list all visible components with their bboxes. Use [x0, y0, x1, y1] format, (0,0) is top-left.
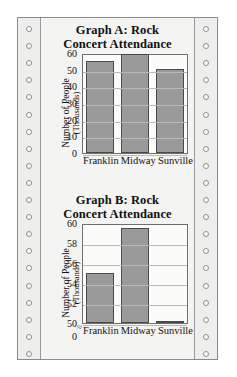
sprocket-hole-left-14	[26, 248, 32, 254]
gridline-b-52	[83, 305, 187, 306]
sprocket-hole-right-15	[203, 265, 209, 271]
sprocket-hole-left-20	[26, 351, 32, 357]
y-tick-a-60: 60	[67, 49, 77, 59]
bar-b-midway	[121, 228, 149, 323]
sprocket-hole-left-10	[26, 180, 32, 186]
sprocket-hole-left-2	[26, 43, 32, 49]
sprocket-hole-right-12	[203, 214, 209, 220]
sprocket-hole-right-8	[203, 146, 209, 152]
sprocket-hole-right-7	[203, 129, 209, 135]
bar-b-franklin	[86, 273, 114, 323]
sprocket-hole-left-8	[26, 146, 32, 152]
sprocket-hole-right-2	[203, 43, 209, 49]
sprocket-hole-left-4	[26, 77, 32, 83]
y-tick-b-58: 58	[67, 239, 77, 249]
x-label-b-franklin: Franklin	[83, 325, 119, 336]
y-tick-b-50: 50	[67, 319, 77, 329]
sprocket-hole-left-7	[26, 129, 32, 135]
sprocket-hole-left-1	[26, 26, 32, 32]
gridline-b-54	[83, 285, 187, 286]
sprocket-hole-right-14	[203, 248, 209, 254]
sprocket-strip-left	[18, 18, 41, 359]
sprocket-hole-left-3	[26, 60, 32, 66]
continuous-form-paper: Graph A: Rock Concert Attendance Number …	[17, 17, 218, 360]
sprocket-hole-right-9	[203, 163, 209, 169]
sprocket-hole-left-5	[26, 94, 32, 100]
sprocket-hole-left-15	[26, 265, 32, 271]
y-axis-ticks-b: 0505254565860	[59, 224, 79, 324]
gridline-a-20	[83, 122, 187, 123]
x-label-a-sunville: Sunville	[158, 155, 193, 166]
y-tick-b-60: 60	[67, 219, 77, 229]
gridline-b-58	[83, 245, 187, 246]
sprocket-strip-right	[194, 18, 217, 359]
gridline-a-40	[83, 88, 187, 89]
sprocket-hole-right-11	[203, 197, 209, 203]
bar-a-sunville	[156, 69, 184, 153]
chart-title-b: Graph B: Rock Concert Attendance	[41, 194, 194, 221]
x-label-b-midway: Midway	[121, 325, 156, 336]
sprocket-hole-right-3	[203, 60, 209, 66]
sprocket-hole-left-18	[26, 317, 32, 323]
y-tick-b-0: 0	[72, 332, 77, 342]
y-tick-a-10: 10	[67, 132, 77, 142]
x-label-b-sunville: Sunville	[158, 325, 193, 336]
sprocket-hole-left-12	[26, 214, 32, 220]
y-tick-a-30: 30	[67, 99, 77, 109]
sprocket-hole-right-20	[203, 351, 209, 357]
sprocket-hole-left-11	[26, 197, 32, 203]
y-tick-a-20: 20	[67, 116, 77, 126]
sprocket-hole-left-17	[26, 300, 32, 306]
gridline-a-10	[83, 138, 187, 139]
bar-group-b	[83, 225, 187, 323]
chart-graph-b: Graph B: Rock Concert Attendance Number …	[41, 194, 194, 359]
chart-title-a-line1: Graph A: Rock	[76, 23, 159, 37]
x-label-a-midway: Midway	[121, 155, 156, 166]
sprocket-hole-right-19	[203, 334, 209, 340]
chart-title-b-line1: Graph B: Rock	[76, 193, 159, 207]
sprocket-hole-right-16	[203, 283, 209, 289]
sprocket-hole-right-17	[203, 300, 209, 306]
y-tick-b-56: 56	[67, 259, 77, 269]
sprocket-hole-right-5	[203, 94, 209, 100]
sprocket-hole-right-4	[203, 77, 209, 83]
sprocket-hole-right-18	[203, 317, 209, 323]
sprocket-hole-left-19	[26, 334, 32, 340]
chart-graph-a: Graph A: Rock Concert Attendance Number …	[41, 24, 194, 189]
plot-area-b	[82, 224, 188, 324]
y-axis-ticks-a: 0102030405060	[59, 54, 79, 154]
printed-sheet: Graph A: Rock Concert Attendance Number …	[41, 18, 194, 359]
sprocket-hole-right-6	[203, 112, 209, 118]
y-tick-b-52: 52	[67, 299, 77, 309]
sprocket-hole-right-13	[203, 231, 209, 237]
x-axis-labels-a: FranklinMidwaySunville	[82, 155, 194, 166]
y-tick-a-40: 40	[67, 82, 77, 92]
sprocket-hole-left-6	[26, 112, 32, 118]
gridline-a-30	[83, 105, 187, 106]
sprocket-hole-left-13	[26, 231, 32, 237]
chart-title-a: Graph A: Rock Concert Attendance	[41, 24, 194, 51]
y-tick-b-54: 54	[67, 279, 77, 289]
bar-b-sunville	[156, 321, 184, 323]
sprocket-hole-right-10	[203, 180, 209, 186]
gridline-a-50	[83, 72, 187, 73]
sprocket-hole-left-9	[26, 163, 32, 169]
y-tick-a-50: 50	[67, 66, 77, 76]
gridline-b-56	[83, 265, 187, 266]
sprocket-hole-right-1	[203, 26, 209, 32]
y-tick-a-0: 0	[72, 149, 77, 159]
sprocket-hole-left-16	[26, 283, 32, 289]
plot-area-a	[82, 54, 188, 154]
x-axis-labels-b: FranklinMidwaySunville	[82, 325, 194, 336]
x-label-a-franklin: Franklin	[83, 155, 119, 166]
